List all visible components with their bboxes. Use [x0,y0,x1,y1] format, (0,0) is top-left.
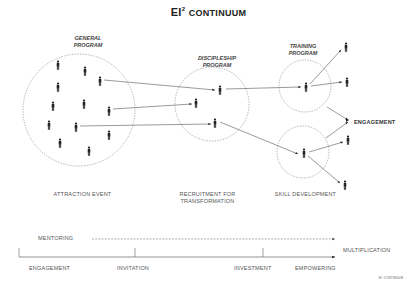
person-icon [52,101,55,110]
flow-arrow [80,124,211,126]
flow-arrow [220,122,298,154]
person-icon [108,106,111,115]
flow-arrow [226,87,301,89]
flow-arrow [104,80,215,90]
person-icon [57,82,60,91]
flow-arrow [311,82,342,86]
person-icon [344,180,347,189]
flow-arrow [327,107,348,120]
person-icon [84,66,87,75]
person-icon [303,148,306,157]
continuum-diagram [0,0,417,289]
flow-arrow [308,156,340,183]
person-icon [88,146,91,155]
person-icon [108,130,111,139]
person-icon [75,122,78,131]
engagement-merge-icon [346,118,349,122]
person-icon [345,42,348,51]
person-icon [83,99,86,108]
person-icon [219,85,222,94]
flow-arrow [326,122,348,138]
flow-arrow [309,142,343,152]
person-icon [347,135,350,144]
person-icon [346,77,349,86]
person-icon [214,118,217,127]
flow-arrow [310,50,341,84]
person-icon [57,60,60,69]
general-program-people [48,60,111,155]
person-icon [99,76,102,85]
person-icon [305,82,308,91]
flow-arrow [113,104,192,109]
discipleship-program-circle [175,67,249,141]
general-program-circle [23,54,135,166]
person-icon [48,120,51,129]
person-icon [195,98,198,107]
person-icon [59,138,62,147]
